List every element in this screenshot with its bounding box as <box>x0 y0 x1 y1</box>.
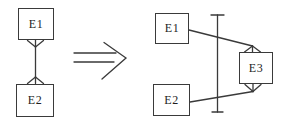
double-right-arrow-icon <box>74 43 126 80</box>
entity-box-e1-after: E1 <box>155 13 189 44</box>
entity-box-e2-before: E2 <box>16 84 54 117</box>
er-transformation-diagram: E1 E2 E1 E2 E3 <box>0 0 285 128</box>
entity-box-e2-after: E2 <box>153 84 190 116</box>
connector-e2-e3 <box>190 92 253 103</box>
entity-box-e1-before: E1 <box>18 8 54 40</box>
entity-box-e3-after: E3 <box>239 52 273 84</box>
crows-foot-icon <box>28 41 44 48</box>
crows-foot-icon <box>28 77 44 84</box>
connector-e1-e3 <box>189 30 253 46</box>
crows-foot-icon <box>245 85 261 92</box>
